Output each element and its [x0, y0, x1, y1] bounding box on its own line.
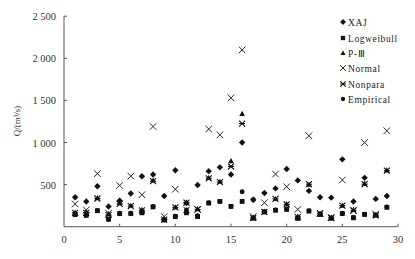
triangle-marker-icon: [340, 50, 345, 55]
x-marker-icon: [272, 171, 279, 178]
series-xaj: [72, 139, 390, 209]
dot-marker-icon: [384, 205, 389, 210]
diamond-marker-icon: [83, 198, 89, 204]
diamond-marker-icon: [261, 190, 267, 196]
dot-marker-icon: [95, 208, 100, 213]
x-marker-icon: [150, 123, 157, 130]
dot-marker-icon: [318, 212, 323, 217]
dot-marker-icon: [307, 208, 312, 213]
data-points: [72, 47, 390, 223]
diamond-marker-icon: [350, 198, 356, 204]
legend-label: Normal: [348, 64, 381, 74]
x-tick-label: 5: [117, 234, 122, 245]
x-marker-icon: [339, 177, 346, 184]
x-marker-icon: [72, 201, 79, 208]
dot-marker-icon: [340, 211, 345, 216]
legend-label: Nonpara: [348, 80, 385, 90]
diamond-marker-icon: [206, 168, 212, 174]
diamond-marker-icon: [317, 194, 323, 200]
x-tick-label: 15: [226, 234, 237, 245]
dot-marker-icon: [106, 217, 111, 222]
scatter-chart: 05001 0001 5002 0002 50051015202530Q/(m³…: [0, 0, 415, 259]
x-tick-label: 30: [393, 234, 404, 245]
x-marker-icon: [384, 127, 391, 134]
legend-item: Normal: [340, 64, 381, 74]
diamond-marker-icon: [328, 194, 334, 200]
dot-marker-icon: [329, 215, 334, 220]
diamond-marker-icon: [150, 171, 156, 177]
diamond-marker-icon: [172, 167, 178, 173]
dot-marker-icon: [262, 209, 267, 214]
legend-item: P-Ⅲ: [340, 49, 365, 59]
dot-marker-icon: [162, 218, 167, 223]
square-marker-icon: [240, 199, 245, 204]
diamond-marker-icon: [161, 193, 167, 199]
x-tick-label: 10: [170, 234, 181, 245]
dot-marker-icon: [206, 200, 211, 205]
diamond-marker-icon: [283, 166, 289, 172]
dot-marker-icon: [128, 211, 133, 216]
diamond-marker-icon: [384, 193, 390, 199]
series-normal: [72, 47, 390, 221]
diamond-marker-icon: [194, 182, 200, 188]
x-marker-icon: [128, 173, 135, 180]
x-marker-icon: [306, 132, 313, 139]
diamond-marker-icon: [295, 177, 301, 183]
dot-marker-icon: [173, 214, 178, 219]
y-tick-label: 1 500: [32, 95, 56, 106]
y-tick-label: 500: [40, 180, 56, 191]
dot-marker-icon: [273, 207, 278, 212]
diamond-marker-icon: [340, 19, 346, 25]
dot-marker-icon: [184, 207, 189, 212]
dot-marker-icon: [284, 207, 289, 212]
dot-marker-icon: [140, 210, 145, 215]
dot-marker-icon: [151, 204, 156, 209]
y-tick-label: 0: [61, 234, 66, 245]
dot-marker-icon: [351, 215, 356, 220]
y-tick-label: 2 500: [32, 11, 56, 22]
dot-marker-icon: [229, 204, 234, 209]
dot-marker-icon: [117, 211, 122, 216]
diamond-marker-icon: [94, 183, 100, 189]
x-marker-icon: [295, 206, 302, 213]
legend-item: Empirical: [341, 95, 391, 105]
legend-item: XAJ: [340, 18, 367, 28]
x-marker-icon: [94, 170, 101, 177]
diamond-marker-icon: [239, 139, 245, 145]
x-marker-icon: [116, 182, 123, 189]
x-marker-icon: [217, 132, 224, 139]
legend-label: Empirical: [348, 95, 391, 105]
x-marker-icon: [239, 47, 246, 54]
diamond-marker-icon: [105, 203, 111, 209]
legend-label: Logweibull: [348, 34, 398, 44]
diamond-marker-icon: [373, 196, 379, 202]
square-marker-icon: [341, 36, 345, 40]
y-axis-label: Q/(m³/s): [12, 106, 22, 137]
x-marker-icon: [340, 65, 346, 71]
legend-item: Logweibull: [341, 34, 398, 44]
dot-marker-icon: [217, 199, 222, 204]
diamond-marker-icon: [228, 171, 234, 177]
dot-marker-icon: [240, 189, 245, 194]
diamond-marker-icon: [72, 194, 78, 200]
legend-item: Nonpara: [340, 80, 385, 90]
x-marker-icon: [172, 186, 179, 193]
x-marker-icon: [261, 199, 268, 206]
triangle-marker-icon: [239, 111, 245, 116]
dot-marker-icon: [251, 197, 256, 202]
dot-marker-icon: [195, 213, 200, 218]
dot-marker-icon: [295, 216, 300, 221]
legend: XAJLogweibullP-ⅢNormalNonparaEmpirical: [340, 18, 398, 105]
dot-marker-icon: [73, 212, 78, 217]
asterisk-marker-icon: [228, 163, 234, 169]
dot-marker-icon: [341, 97, 345, 101]
legend-label: XAJ: [348, 18, 367, 28]
asterisk-marker-icon: [340, 81, 345, 86]
x-marker-icon: [205, 126, 212, 133]
x-tick-label: 25: [337, 234, 348, 245]
dot-marker-icon: [362, 212, 367, 217]
x-marker-icon: [139, 191, 146, 198]
x-marker-icon: [361, 139, 368, 146]
y-tick-label: 1 000: [32, 138, 56, 149]
x-tick-label: 20: [281, 234, 292, 245]
